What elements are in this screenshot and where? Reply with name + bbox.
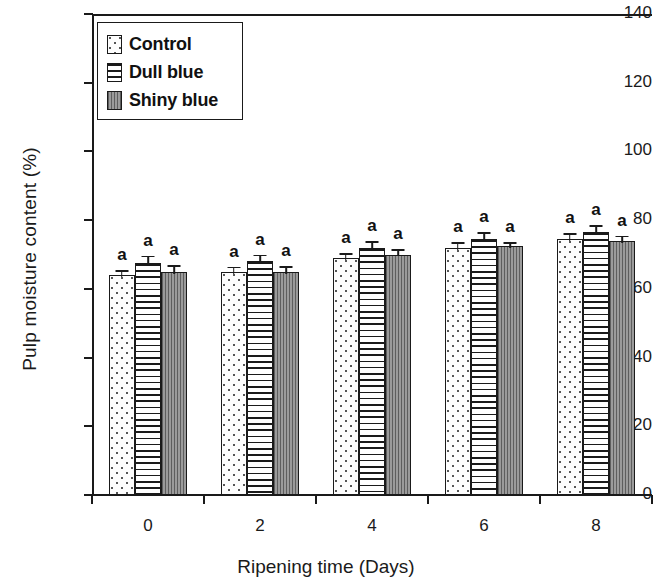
x-tick-label: 2 [230,516,290,536]
error-bar-cap [563,233,576,235]
x-tick-label: 0 [118,516,178,536]
error-bar-cap [616,236,629,238]
legend-item-label: Shiny blue [129,90,218,111]
legend-item: Control [107,30,242,58]
bar [557,239,583,495]
bar [273,272,299,495]
error-bar [583,225,609,234]
significance-letter: a [497,217,523,237]
error-bar-cap [142,256,155,258]
error-bar [273,266,299,273]
significance-letter: a [333,228,359,248]
error-bar [247,255,273,264]
bar [247,261,273,495]
significance-letter: a [247,230,273,250]
significance-letter: a [359,216,385,236]
error-bar-cap [478,232,491,234]
error-bar-cap [590,225,603,227]
bar [583,232,609,495]
legend-swatch-icon [107,91,122,110]
error-bar-cap [366,241,379,243]
bar [161,272,187,495]
significance-letter: a [609,211,635,231]
x-tick-mark [315,495,317,504]
error-bar-cap [254,255,267,257]
legend-item: Dull blue [107,58,242,86]
error-bar [557,233,583,241]
legend-item: Shiny blue [107,86,242,114]
x-tick-mark [91,495,93,504]
bar [221,272,247,495]
y-axis-title: Pulp moisture content (%) [19,79,41,439]
x-tick-label: 6 [454,516,514,536]
error-bar [497,242,523,247]
error-bar-cap [227,267,240,269]
error-bar [333,253,359,260]
legend-item-label: Dull blue [129,62,203,83]
bar [385,255,411,496]
bar [359,248,385,495]
significance-letter: a [109,245,135,265]
x-tick-label: 8 [566,516,626,536]
error-bar-cap [168,265,181,267]
error-bar-cap [392,249,405,251]
error-bar [609,236,635,243]
error-bar [471,232,497,241]
significance-letter: a [557,208,583,228]
error-bar [359,241,385,250]
bar [135,263,161,495]
error-bar-cap [504,242,517,244]
x-tick-label: 4 [342,516,402,536]
error-bar-cap [339,253,352,255]
x-tick-mark [539,495,541,504]
bar [497,246,523,495]
significance-letter: a [445,217,471,237]
bar [609,241,635,495]
error-bar [445,242,471,249]
error-bar [221,267,247,274]
error-bar [109,270,135,277]
legend: ControlDull blueShiny blue [97,22,243,120]
error-bar-cap [451,242,464,244]
bar [445,248,471,495]
significance-letter: a [135,231,161,251]
legend-swatch-icon [107,63,122,82]
significance-letter: a [273,241,299,261]
x-tick-mark [427,495,429,504]
significance-letter: a [161,240,187,260]
legend-item-label: Control [129,34,192,55]
significance-letter: a [385,224,411,244]
significance-letter: a [583,200,609,220]
bar [471,239,497,495]
bar [333,258,359,495]
x-axis-title: Ripening time (Days) [0,556,652,578]
significance-letter: a [221,242,247,262]
error-bar-cap [115,270,128,272]
bar [109,275,135,495]
error-bar-cap [280,266,293,268]
error-bar [385,249,411,256]
significance-letter: a [471,207,497,227]
error-bar [161,265,187,274]
legend-swatch-icon [107,35,122,54]
error-bar [135,256,161,266]
x-tick-mark [203,495,205,504]
